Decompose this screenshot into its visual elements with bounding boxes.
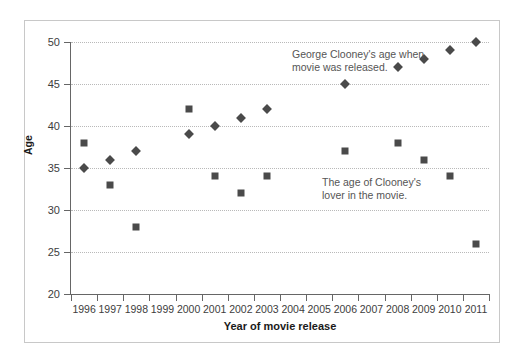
y-tick-mark xyxy=(64,42,71,43)
chart-figure: 20253035404550 1996199719981999200020012… xyxy=(0,0,525,359)
data-point-marker xyxy=(81,139,88,146)
annotation-clooney-age: George Clooney's age when movie was rele… xyxy=(292,48,424,74)
y-tick-mark xyxy=(64,84,71,85)
gridline xyxy=(71,252,489,253)
y-tick-label: 35 xyxy=(36,163,60,174)
annotation-lover-age: The age of Clooney's lover in the movie. xyxy=(322,176,421,202)
data-point-marker xyxy=(107,181,114,188)
x-tick-mark xyxy=(463,294,464,301)
data-point-marker xyxy=(237,190,244,197)
data-point-marker xyxy=(446,173,453,180)
data-point-marker xyxy=(263,173,270,180)
gridline xyxy=(71,84,489,85)
x-tick-label: 2011 xyxy=(459,303,493,315)
data-point-marker xyxy=(133,223,140,230)
x-tick-mark xyxy=(332,294,333,301)
x-tick-mark xyxy=(280,294,281,301)
data-point-marker xyxy=(131,146,141,156)
y-tick-mark xyxy=(64,210,71,211)
x-tick-mark xyxy=(71,294,72,301)
x-tick-mark xyxy=(437,294,438,301)
x-tick-mark xyxy=(149,294,150,301)
data-point-marker xyxy=(472,240,479,247)
y-tick-mark xyxy=(64,168,71,169)
data-point-marker xyxy=(394,139,401,146)
y-axis-tick-labels: 20253035404550 xyxy=(34,0,60,359)
data-point-marker xyxy=(79,163,89,173)
x-tick-mark xyxy=(358,294,359,301)
data-point-marker xyxy=(211,173,218,180)
data-point-marker xyxy=(342,148,349,155)
y-tick-mark xyxy=(64,126,71,127)
gridline xyxy=(71,42,489,43)
data-point-marker xyxy=(262,104,272,114)
data-point-marker xyxy=(420,156,427,163)
gridline xyxy=(71,126,489,127)
y-tick-label: 30 xyxy=(36,205,60,216)
data-point-marker xyxy=(340,79,350,89)
gridline xyxy=(71,210,489,211)
data-point-marker xyxy=(185,106,192,113)
data-point-marker xyxy=(210,121,220,131)
x-tick-mark xyxy=(306,294,307,301)
x-tick-mark xyxy=(202,294,203,301)
y-tick-label: 20 xyxy=(36,289,60,300)
x-axis-title: Year of movie release xyxy=(71,320,489,332)
x-tick-mark xyxy=(254,294,255,301)
x-tick-mark xyxy=(176,294,177,301)
y-tick-label: 45 xyxy=(36,79,60,90)
y-axis-title: Age xyxy=(22,135,34,155)
x-tick-mark xyxy=(123,294,124,301)
data-point-marker xyxy=(445,45,455,55)
x-tick-mark xyxy=(411,294,412,301)
x-tick-mark xyxy=(385,294,386,301)
x-tick-mark xyxy=(489,294,490,301)
plot-area xyxy=(71,42,489,294)
y-tick-label: 40 xyxy=(36,121,60,132)
y-tick-mark xyxy=(64,294,71,295)
data-point-marker xyxy=(236,113,246,123)
data-point-marker xyxy=(184,129,194,139)
x-tick-mark xyxy=(97,294,98,301)
y-tick-label: 50 xyxy=(36,37,60,48)
y-tick-mark xyxy=(64,252,71,253)
gridline xyxy=(71,168,489,169)
y-tick-label: 25 xyxy=(36,247,60,258)
data-point-marker xyxy=(105,155,115,165)
x-tick-mark xyxy=(228,294,229,301)
